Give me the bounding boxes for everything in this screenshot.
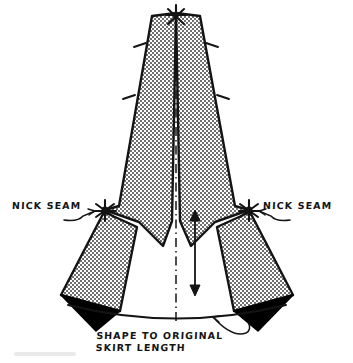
caption-line-2: SKIRT LENGTH [95,342,223,354]
caption-line-1: SHAPE TO ORIGINAL [96,330,224,342]
page-smudge [14,352,76,356]
label-nick-seam-right: NICK SEAM [263,200,333,212]
rotated-panel-left [61,212,137,311]
seam-tick-mark [123,95,135,99]
caption-shape-to-original-skirt-length: SHAPE TO ORIGINAL SKIRT LENGTH [95,330,223,353]
nick-star-hub [102,207,109,214]
pattern-diagram: NICK SEAM NICK SEAM SHAPE TO ORIGINAL SK… [0,0,353,363]
seam-tick-mark [206,43,218,47]
seam-tick-mark [134,43,146,47]
nick-star-hub [173,12,179,18]
seam-tick-mark [217,95,229,99]
label-nick-seam-left: NICK SEAM [12,200,82,212]
pattern-illustration-canvas [0,0,353,363]
nick-star-hub [246,207,253,214]
rotated-panel-right [217,212,293,311]
